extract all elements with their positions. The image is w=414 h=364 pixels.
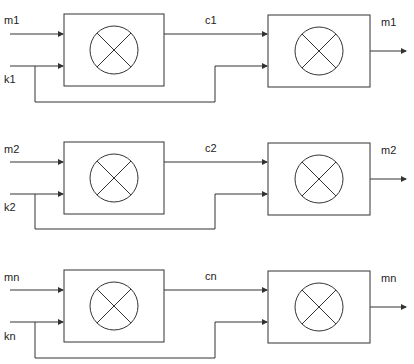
cipher-label: c1: [205, 14, 217, 26]
cipher-label: cn: [205, 270, 217, 282]
key-label: k1: [4, 73, 16, 85]
cipher-row-2: m2 k2 c2 m2: [4, 142, 406, 229]
key-label: k2: [4, 201, 16, 213]
input-label: m2: [4, 143, 19, 155]
cipher-label: c2: [205, 142, 217, 154]
output-label: mn: [381, 272, 396, 284]
cipher-row-n: mn kn cn mn: [4, 270, 406, 358]
input-label: mn: [4, 271, 19, 283]
key-label: kn: [4, 330, 16, 342]
input-label: m1: [4, 14, 19, 26]
output-label: m2: [381, 144, 396, 156]
output-label: m1: [381, 16, 396, 28]
cipher-row-1: m1 k1 c1 m1: [4, 14, 406, 102]
diagram-canvas: m1 k1 c1 m1 m2 k2: [0, 0, 414, 364]
